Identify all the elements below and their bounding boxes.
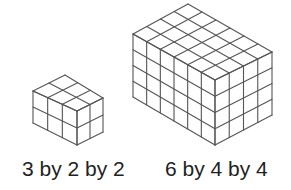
- large-prism: [133, 4, 272, 145]
- large-prism-label: 6 by 4 by 4: [165, 158, 268, 180]
- small-prism-label: 3 by 2 by 2: [22, 158, 125, 180]
- small-prism: [33, 75, 103, 145]
